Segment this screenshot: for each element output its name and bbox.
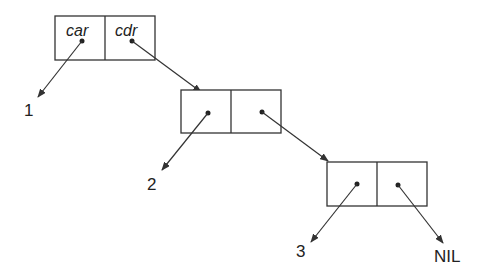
cons-cell-3 — [311, 162, 443, 243]
value-label-1: 1 — [24, 101, 33, 120]
value-label-2: 2 — [147, 175, 156, 194]
cell-1-cdr-arrow — [132, 41, 201, 92]
value-label-3: 3 — [296, 242, 305, 261]
cons-cell-diagram: car cdr 1 2 3 NIL — [0, 0, 491, 278]
cdr-header: cdr — [115, 22, 138, 39]
cons-cell-2 — [162, 90, 328, 170]
cell-2-cdr-arrow — [262, 112, 328, 161]
nil-label: NIL — [434, 247, 460, 266]
car-header: car — [66, 22, 89, 39]
cons-cell-1: car cdr — [38, 16, 201, 97]
